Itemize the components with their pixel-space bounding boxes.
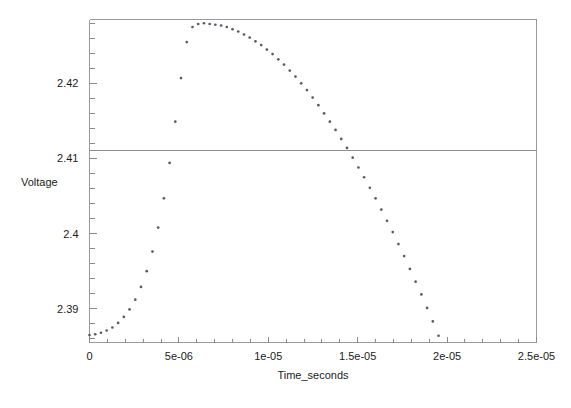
data-point — [203, 22, 206, 25]
data-point — [369, 186, 372, 189]
x-tick-label: 0 — [86, 350, 92, 362]
data-point — [122, 316, 125, 319]
data-points — [88, 22, 440, 337]
data-point — [363, 176, 366, 179]
axis-tick-labels: 2.392.42.412.4205e-061e-051.5e-052e-052.… — [57, 77, 555, 361]
data-point — [409, 268, 412, 271]
data-point — [214, 23, 217, 26]
data-point — [374, 197, 377, 200]
data-point — [174, 120, 177, 123]
data-point — [94, 333, 97, 336]
data-point — [306, 89, 309, 92]
data-point — [277, 58, 280, 61]
y-tick-label: 2.42 — [57, 77, 78, 89]
data-point — [151, 250, 154, 253]
data-point — [357, 166, 360, 169]
data-point — [225, 26, 228, 29]
data-point — [288, 69, 291, 72]
data-point — [128, 308, 131, 311]
data-point — [145, 270, 148, 273]
data-point — [414, 280, 417, 283]
data-point — [403, 255, 406, 258]
data-point — [351, 156, 354, 159]
data-point — [346, 147, 349, 150]
x-tick-label: 1e-05 — [254, 350, 282, 362]
x-tick-label: 2e-05 — [433, 350, 461, 362]
data-point — [317, 104, 320, 107]
data-point — [111, 326, 114, 329]
data-point — [100, 331, 103, 334]
chart-container: 2.392.42.412.4205e-061e-051.5e-052e-052.… — [0, 0, 571, 408]
data-point — [334, 129, 337, 132]
data-point — [220, 24, 223, 27]
data-point — [163, 197, 166, 200]
data-point — [157, 226, 160, 229]
data-point — [437, 334, 440, 337]
data-point — [140, 286, 143, 289]
data-point — [105, 329, 108, 332]
data-point — [117, 322, 120, 325]
y-axis-title: Voltage — [21, 176, 58, 188]
data-point — [300, 82, 303, 85]
data-point — [88, 334, 91, 337]
data-point — [294, 75, 297, 78]
data-point — [197, 23, 200, 26]
data-point — [391, 231, 394, 234]
x-tick-label: 2.5e-05 — [518, 350, 555, 362]
data-point — [431, 320, 434, 323]
data-point — [426, 307, 429, 310]
data-point — [260, 44, 263, 47]
data-point — [420, 293, 423, 296]
x-axis-title: Time_seconds — [277, 369, 349, 381]
data-point — [386, 219, 389, 222]
data-point — [266, 48, 269, 51]
y-tick-label: 2.4 — [63, 228, 78, 240]
data-point — [180, 77, 183, 80]
data-point — [243, 33, 246, 36]
data-point — [283, 63, 286, 66]
data-point — [397, 243, 400, 246]
axis-ticks — [90, 23, 537, 342]
data-point — [248, 36, 251, 39]
data-point — [134, 298, 137, 301]
data-point — [168, 162, 171, 165]
data-point — [380, 208, 383, 211]
data-point — [231, 28, 234, 31]
scatter-plot: 2.392.42.412.4205e-061e-051.5e-052e-052.… — [0, 0, 571, 408]
data-point — [237, 30, 240, 33]
data-point — [340, 138, 343, 141]
data-point — [271, 53, 274, 56]
y-tick-label: 2.41 — [57, 152, 78, 164]
data-point — [323, 112, 326, 115]
data-point — [328, 120, 331, 123]
x-tick-label: 1.5e-05 — [339, 350, 376, 362]
data-point — [254, 40, 257, 43]
x-tick-label: 5e-06 — [165, 350, 193, 362]
y-tick-label: 2.39 — [57, 303, 78, 315]
data-point — [311, 96, 314, 99]
data-point — [185, 41, 188, 44]
plot-frame — [90, 20, 537, 343]
data-point — [208, 23, 211, 26]
data-point — [191, 26, 194, 29]
